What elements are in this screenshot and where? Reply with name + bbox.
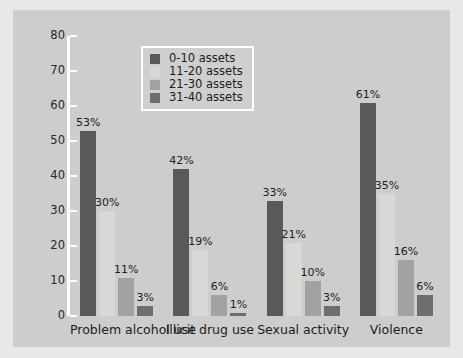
bar[interactable] <box>192 250 208 317</box>
bar-value-label: 61% <box>356 89 380 100</box>
legend-swatch-icon <box>150 54 160 64</box>
legend-swatch-icon <box>150 80 160 90</box>
bar-value-label: 30% <box>95 197 119 208</box>
bar-slot: 11% <box>118 36 134 316</box>
bar[interactable] <box>118 278 134 317</box>
bar[interactable] <box>80 131 96 317</box>
bar-value-label: 21% <box>281 229 305 240</box>
y-axis-tick-label: 20 <box>31 240 65 252</box>
legend-item[interactable]: 31-40 assets <box>150 91 243 104</box>
legend-label: 0-10 assets <box>169 53 235 65</box>
legend-label: 21-30 assets <box>169 79 243 91</box>
category-label: Sexual activity <box>257 322 350 337</box>
category-label: Problem alcohol use <box>70 322 163 337</box>
bar-value-label: 6% <box>416 281 433 292</box>
y-axis-tick-label: 60 <box>31 100 65 112</box>
category-label: Illicit drug use <box>163 322 256 337</box>
bar-slot: 3% <box>324 36 340 316</box>
bar-value-label: 16% <box>394 246 418 257</box>
bar[interactable] <box>211 295 227 316</box>
y-axis-tick-label: 80 <box>31 30 65 42</box>
bar-value-label: 53% <box>76 117 100 128</box>
legend-swatch-icon <box>150 93 160 103</box>
bar-group: 61%35%16%6% <box>350 36 443 316</box>
bar[interactable] <box>173 169 189 316</box>
bar[interactable] <box>305 281 321 316</box>
bar-value-label: 33% <box>262 187 286 198</box>
bar-value-label: 10% <box>300 267 324 278</box>
bar-slot: 16% <box>398 36 414 316</box>
bar[interactable] <box>99 211 115 316</box>
category-label: Violence <box>350 322 443 337</box>
bar[interactable] <box>379 194 395 317</box>
bar-slot: 33% <box>267 36 283 316</box>
bar-slot: 21% <box>286 36 302 316</box>
bar[interactable] <box>267 201 283 317</box>
bar[interactable] <box>137 306 153 317</box>
bar-slot: 35% <box>379 36 395 316</box>
bar-value-label: 1% <box>230 299 247 310</box>
bar-group: 33%21%10%3% <box>257 36 350 316</box>
y-axis-tick-label: 30 <box>31 205 65 217</box>
bar[interactable] <box>360 103 376 317</box>
bar[interactable] <box>417 295 433 316</box>
y-axis-tick-label: 50 <box>31 135 65 147</box>
bar[interactable] <box>286 243 302 317</box>
bar-value-label: 6% <box>211 281 228 292</box>
category-axis-labels: Problem alcohol useIllicit drug useSexua… <box>70 322 443 346</box>
bar[interactable] <box>230 313 246 317</box>
y-axis-tick-label: 10 <box>31 275 65 287</box>
legend-label: 11-20 assets <box>169 66 243 78</box>
bar-value-label: 3% <box>136 292 153 303</box>
y-axis-tick-label: 40 <box>31 170 65 182</box>
bar[interactable] <box>398 260 414 316</box>
bar-value-label: 3% <box>323 292 340 303</box>
bar-value-label: 11% <box>114 264 138 275</box>
bar-slot: 61% <box>360 36 376 316</box>
y-axis-tick-label: 70 <box>31 65 65 77</box>
bar-slot: 30% <box>99 36 115 316</box>
bars-area: 53%30%11%3%42%19%6%1%33%21%10%3%61%35%16… <box>70 36 443 316</box>
chart-figure: 01020304050607080 53%30%11%3%42%19%6%1%3… <box>0 0 463 358</box>
chart-legend: 0-10 assets11-20 assets21-30 assets31-40… <box>141 46 254 111</box>
legend-swatch-icon <box>150 67 160 77</box>
bar-slot: 10% <box>305 36 321 316</box>
bar[interactable] <box>324 306 340 317</box>
bar-value-label: 35% <box>375 180 399 191</box>
y-axis-tick-label: 0 <box>31 310 65 322</box>
plot-panel: 01020304050607080 53%30%11%3%42%19%6%1%3… <box>13 10 450 347</box>
y-axis-tick-labels: 01020304050607080 <box>21 10 65 347</box>
bar-slot: 6% <box>417 36 433 316</box>
bar-slot: 53% <box>80 36 96 316</box>
bar-value-label: 19% <box>188 236 212 247</box>
bar-value-label: 42% <box>169 155 193 166</box>
legend-label: 31-40 assets <box>169 92 243 104</box>
